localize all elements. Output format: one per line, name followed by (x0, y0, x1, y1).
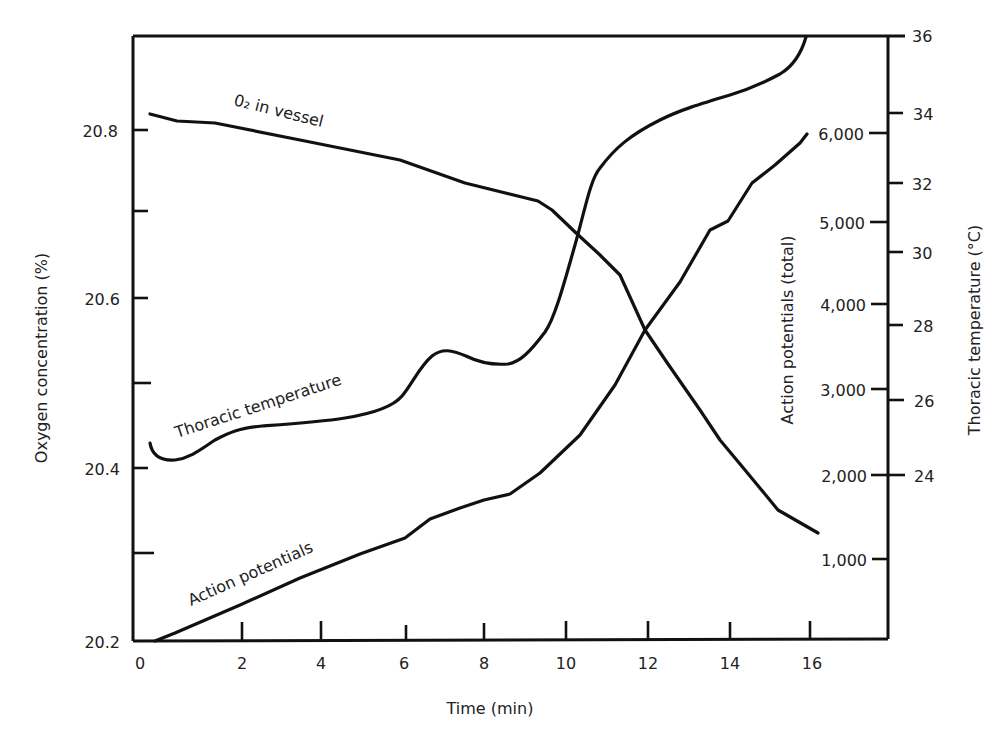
right-outer-tick-labels: 24 26 28 30 32 34 36 (912, 27, 934, 486)
x-tick-label: 4 (316, 654, 326, 673)
right-outer-tick-label: 30 (912, 244, 932, 263)
right-outer-axis-title: Thoracic temperature (°C) (965, 225, 984, 437)
right-outer-tick-label: 32 (912, 175, 932, 194)
right-inner-tick-label: 5,000 (819, 214, 865, 233)
right-outer-tick-label: 28 (913, 317, 933, 336)
x-axis-title: Time (min) (446, 699, 534, 718)
left-ticks (133, 130, 154, 553)
x-tick-label: 0 (135, 654, 145, 673)
chart: 0 2 4 6 8 10 12 14 16 Time (min) 20.2 20… (0, 0, 1008, 745)
left-tick-labels: 20.2 20.4 20.6 20.8 (82, 122, 120, 652)
o2-curve-label: 0₂ in vessel (232, 90, 325, 131)
left-tick-label: 20.2 (84, 633, 120, 652)
left-tick-label: 20.4 (84, 460, 120, 479)
left-tick-label: 20.8 (82, 122, 118, 141)
x-tick-label: 6 (399, 654, 409, 673)
bottom-axis-line (133, 639, 888, 641)
x-tick-label: 10 (556, 654, 576, 673)
right-inner-axis-title: Action potentials (total) (778, 236, 797, 425)
right-outer-tick-label: 34 (913, 105, 933, 124)
x-tick-label: 2 (237, 654, 247, 673)
x-tick-label: 14 (720, 654, 740, 673)
x-tick-labels: 0 2 4 6 8 10 12 14 16 (135, 654, 822, 673)
right-outer-tick-label: 36 (912, 27, 932, 46)
right-inner-tick-label: 6,000 (818, 125, 864, 144)
right-inner-tick-label: 2,000 (821, 467, 867, 486)
left-axis-title: Oxygen concentration (%) (32, 253, 51, 463)
left-tick-label: 20.6 (84, 290, 120, 309)
o2-in-vessel-line (150, 114, 818, 533)
right-outer-tick-label: 24 (914, 467, 934, 486)
x-tick-label: 12 (638, 654, 658, 673)
right-inner-tick-label: 1,000 (821, 551, 867, 570)
temperature-curve-label: Thoracic temperature (171, 370, 343, 442)
x-tick-label: 8 (479, 654, 489, 673)
x-tick-label: 16 (802, 654, 822, 673)
right-outer-tick-label: 26 (914, 392, 934, 411)
right-inner-tick-labels: 1,000 2,000 3,000 4,000 5,000 6,000 (818, 125, 867, 570)
right-inner-tick-label: 4,000 (820, 296, 866, 315)
right-inner-tick-label: 3,000 (820, 381, 866, 400)
right-outer-ticks (888, 113, 905, 475)
right-inner-ticks (869, 133, 888, 559)
